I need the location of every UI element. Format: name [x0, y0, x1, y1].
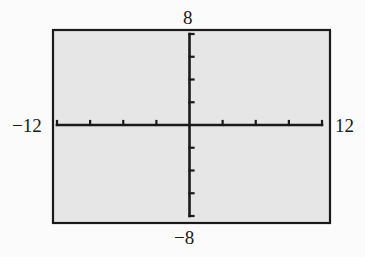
y-max-label: 8 — [183, 8, 193, 27]
x-max-label: 12 — [335, 116, 354, 135]
graph-window — [0, 0, 365, 257]
x-min-label: −12 — [12, 116, 42, 135]
y-min-label: −8 — [174, 228, 194, 247]
